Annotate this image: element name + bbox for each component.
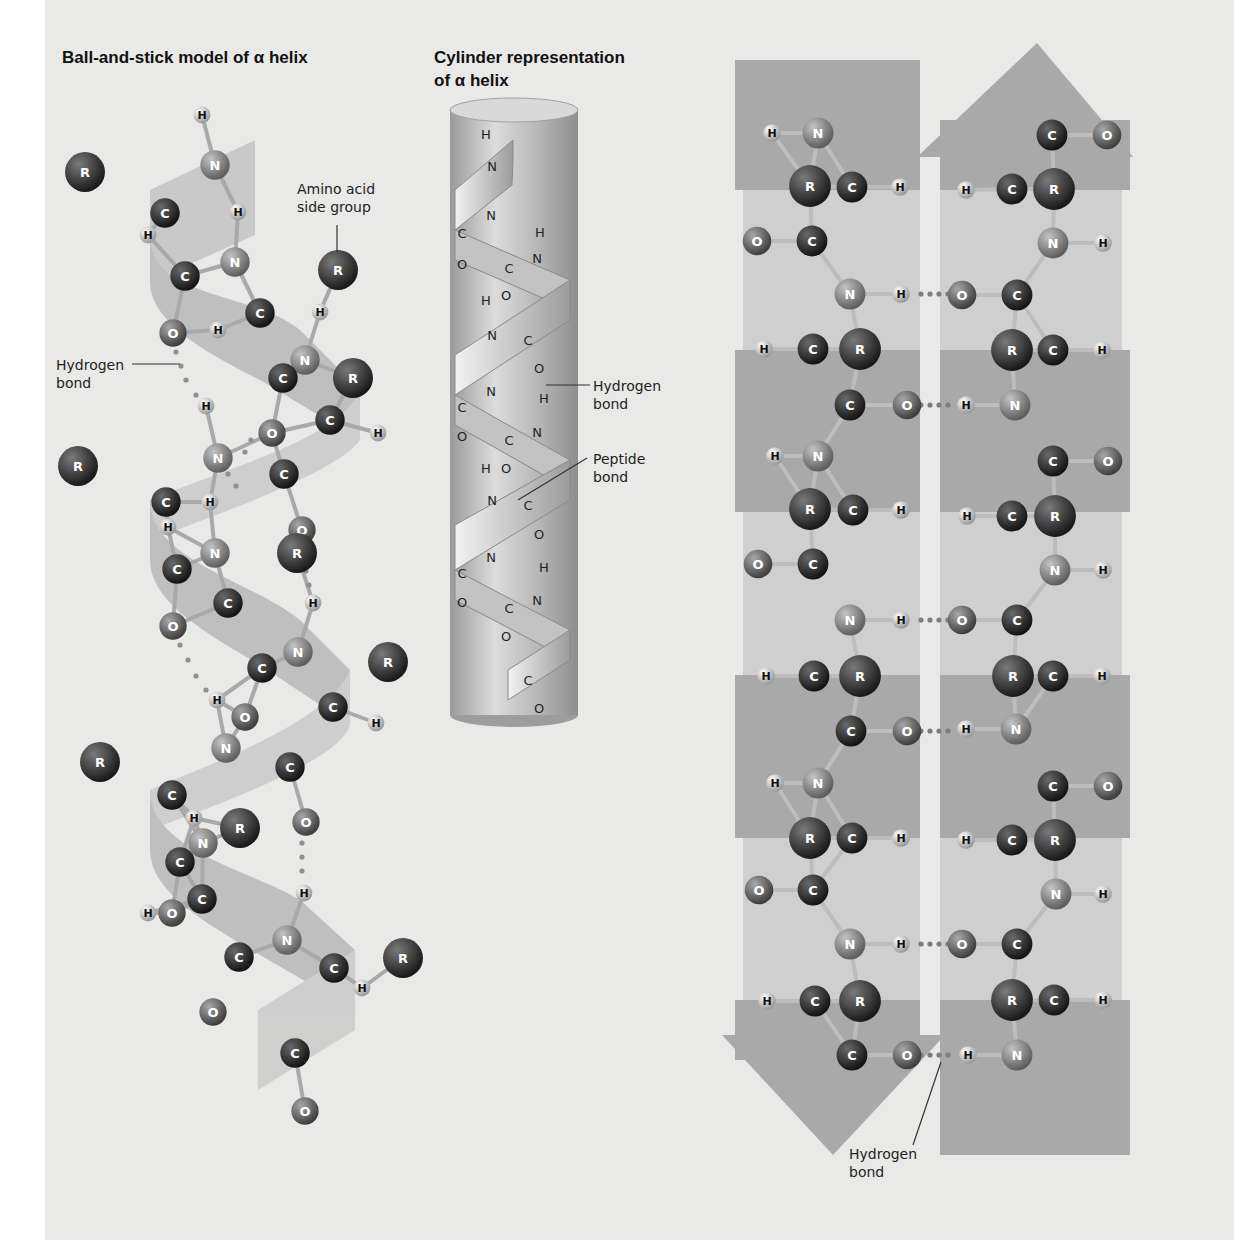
atom-c: C — [1038, 771, 1069, 802]
svg-text:C: C — [845, 398, 855, 413]
atom-n: N — [835, 929, 866, 960]
svg-text:H: H — [212, 694, 221, 707]
atom-h: H — [305, 595, 322, 612]
atom-o: O — [231, 703, 258, 730]
svg-text:N: N — [230, 255, 241, 270]
atom-c: C — [1002, 929, 1033, 960]
svg-text:O: O — [534, 701, 544, 716]
beta-callout-line — [913, 1062, 941, 1145]
svg-text:R: R — [292, 546, 302, 561]
svg-text:N: N — [486, 208, 496, 223]
atom-o: O — [1093, 121, 1122, 150]
atom-r: R — [991, 329, 1033, 371]
svg-text:O: O — [1101, 128, 1112, 143]
svg-text:C: C — [523, 673, 532, 688]
svg-text:O: O — [956, 613, 967, 628]
svg-text:H: H — [770, 777, 779, 790]
svg-text:C: C — [161, 495, 171, 510]
atom-r: R — [368, 642, 408, 682]
atom-n: N — [835, 605, 866, 636]
atom-o: O — [159, 319, 186, 346]
svg-text:C: C — [325, 413, 335, 428]
atom-n: N — [1041, 879, 1072, 910]
svg-text:N: N — [487, 328, 497, 343]
svg-text:C: C — [172, 562, 182, 577]
svg-text:H: H — [1098, 888, 1107, 901]
atom-r: R — [992, 655, 1034, 697]
svg-text:C: C — [847, 831, 857, 846]
svg-text:N: N — [213, 451, 224, 466]
svg-text:H: H — [371, 717, 380, 730]
atom-h: H — [1094, 885, 1112, 903]
svg-text:C: C — [278, 371, 288, 386]
atom-o: O — [893, 391, 922, 420]
atom-h: H — [957, 181, 975, 199]
svg-text:C: C — [167, 788, 177, 803]
atom-o: O — [1094, 447, 1123, 476]
atom-c: C — [150, 198, 179, 227]
alpha-hydrogen-bond-callout: Hydrogen bond — [56, 356, 124, 392]
svg-text:C: C — [329, 961, 339, 976]
alpha-helix-cylinder: HNNCOHNCOHNCONCOHNCOHNCONCOHNCOCO — [450, 98, 578, 727]
svg-text:C: C — [808, 557, 818, 572]
atom-h: H — [312, 304, 329, 321]
svg-text:H: H — [896, 614, 905, 627]
svg-text:R: R — [805, 831, 815, 846]
svg-text:H: H — [233, 206, 242, 219]
svg-text:N: N — [487, 493, 497, 508]
svg-text:R: R — [855, 994, 865, 1009]
atom-c: C — [837, 823, 868, 854]
cylinder-title-line1: Cylinder representation — [434, 47, 625, 68]
svg-text:H: H — [761, 670, 770, 683]
atom-r: R — [789, 165, 831, 207]
peptide-bond-callout: Peptide bond — [593, 450, 645, 486]
svg-text:C: C — [1007, 833, 1017, 848]
atom-h: H — [891, 178, 909, 196]
atom-o: O — [745, 876, 774, 905]
atom-c: C — [798, 549, 829, 580]
atom-r: R — [1034, 495, 1076, 537]
svg-text:R: R — [805, 502, 815, 517]
atom-c: C — [318, 692, 347, 721]
svg-text:N: N — [293, 645, 304, 660]
svg-text:R: R — [805, 179, 815, 194]
atom-c: C — [151, 487, 180, 516]
svg-text:O: O — [901, 1048, 912, 1063]
atom-c: C — [315, 405, 344, 434]
svg-text:C: C — [808, 342, 818, 357]
atom-o: O — [258, 419, 285, 446]
svg-text:C: C — [807, 234, 817, 249]
atom-n: N — [1001, 714, 1032, 745]
svg-text:C: C — [1047, 128, 1057, 143]
svg-text:C: C — [847, 180, 857, 195]
svg-text:R: R — [1049, 182, 1059, 197]
atom-h: H — [892, 501, 910, 519]
svg-text:N: N — [1048, 236, 1059, 251]
atom-h: H — [186, 810, 203, 827]
atom-h: H — [892, 829, 910, 847]
svg-text:C: C — [1048, 669, 1058, 684]
svg-text:N: N — [486, 550, 496, 565]
svg-text:C: C — [234, 950, 244, 965]
svg-text:O: O — [956, 288, 967, 303]
svg-text:N: N — [845, 287, 856, 302]
svg-text:O: O — [501, 288, 511, 303]
svg-text:C: C — [328, 700, 338, 715]
svg-text:H: H — [143, 229, 152, 242]
svg-text:R: R — [1050, 509, 1060, 524]
atom-n: N — [803, 441, 834, 472]
atom-n: N — [211, 733, 240, 762]
atom-c: C — [997, 174, 1028, 205]
svg-text:C: C — [1048, 779, 1058, 794]
svg-text:H: H — [962, 510, 971, 523]
svg-text:R: R — [235, 821, 245, 836]
svg-text:C: C — [175, 855, 185, 870]
svg-text:N: N — [532, 593, 542, 608]
atom-o: O — [948, 930, 977, 959]
svg-text:H: H — [357, 982, 366, 995]
atom-c: C — [247, 653, 276, 682]
atom-h: H — [892, 935, 910, 953]
svg-text:H: H — [1097, 670, 1106, 683]
svg-text:N: N — [486, 384, 496, 399]
atom-o: O — [948, 281, 977, 310]
